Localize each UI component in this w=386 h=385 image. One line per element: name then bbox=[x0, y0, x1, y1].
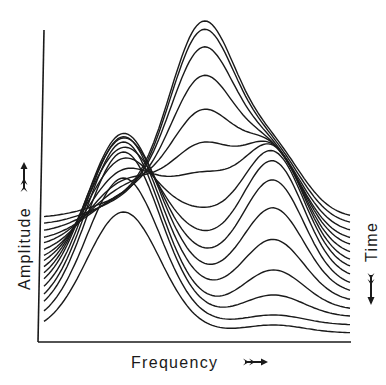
y-axis-label: Amplitude bbox=[16, 207, 33, 290]
time-axis-label: Time bbox=[363, 222, 380, 262]
trace-t2 bbox=[44, 152, 350, 316]
x-axis-label: Frequency bbox=[131, 354, 218, 371]
trace-t3 bbox=[44, 142, 350, 308]
trace-t13 bbox=[44, 47, 350, 230]
y-axis bbox=[38, 30, 44, 342]
waterfall-chart: Frequency Amplitude Time bbox=[0, 0, 386, 385]
trace-t4 bbox=[44, 137, 350, 300]
traces bbox=[44, 21, 350, 333]
amplitude-arrow-icon bbox=[21, 162, 28, 192]
frequency-arrow-icon bbox=[243, 359, 268, 366]
time-arrow-icon bbox=[368, 273, 375, 305]
